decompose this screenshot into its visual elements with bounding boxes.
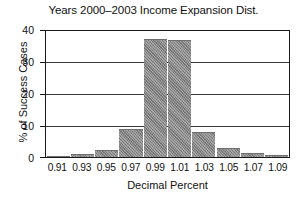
x-tick-label-1.05: 1.05 — [217, 161, 242, 177]
x-tick-label-0.91: 0.91 — [45, 161, 70, 177]
chart-title: Years 2000–2003 Income Expansion Dist. — [0, 4, 307, 16]
bar-slot — [143, 31, 167, 157]
x-axis-title: Decimal Percent — [45, 179, 290, 191]
bar-1.05[interactable] — [217, 148, 240, 157]
bar-slot — [46, 31, 70, 157]
y-tick-label-10: 10 — [22, 121, 34, 131]
plot-area — [45, 30, 290, 158]
histogram-chart: Years 2000–2003 Income Expansion Dist. %… — [0, 0, 307, 202]
y-tick-label-20: 20 — [22, 89, 34, 99]
y-axis: % of Success Cases 40 30 20 10 0 — [0, 0, 41, 202]
bar-series — [46, 31, 289, 157]
x-tick-label-0.97: 0.97 — [119, 161, 144, 177]
x-tick-label-0.93: 0.93 — [70, 161, 95, 177]
bar-slot — [240, 31, 264, 157]
x-tick-label-1.01: 1.01 — [168, 161, 193, 177]
bar-slot — [265, 31, 289, 157]
x-tick-label-0.95: 0.95 — [94, 161, 119, 177]
bar-0.91[interactable] — [47, 156, 70, 157]
y-tick-label-30: 30 — [22, 57, 34, 67]
x-axis-tick-labels: 0.910.930.950.970.991.011.031.051.071.09 — [45, 161, 290, 177]
x-tick-label-0.99: 0.99 — [143, 161, 168, 177]
x-tick-label-1.03: 1.03 — [192, 161, 217, 177]
bar-slot — [70, 31, 94, 157]
bar-0.95[interactable] — [95, 150, 118, 157]
bar-1.07[interactable] — [241, 153, 264, 157]
bar-1.03[interactable] — [192, 132, 215, 157]
bar-1.01[interactable] — [168, 40, 191, 157]
bar-slot — [167, 31, 191, 157]
bar-slot — [119, 31, 143, 157]
x-tick-label-1.09: 1.09 — [266, 161, 291, 177]
bar-slot — [192, 31, 216, 157]
bar-slot — [216, 31, 240, 157]
bar-0.97[interactable] — [119, 129, 142, 157]
bar-slot — [95, 31, 119, 157]
bar-0.93[interactable] — [71, 154, 94, 157]
y-tick-label-0: 0 — [28, 153, 34, 163]
x-tick-label-1.07: 1.07 — [241, 161, 266, 177]
bar-1.09[interactable] — [265, 155, 288, 157]
bar-0.99[interactable] — [144, 39, 167, 157]
y-tick-label-40: 40 — [22, 25, 34, 35]
